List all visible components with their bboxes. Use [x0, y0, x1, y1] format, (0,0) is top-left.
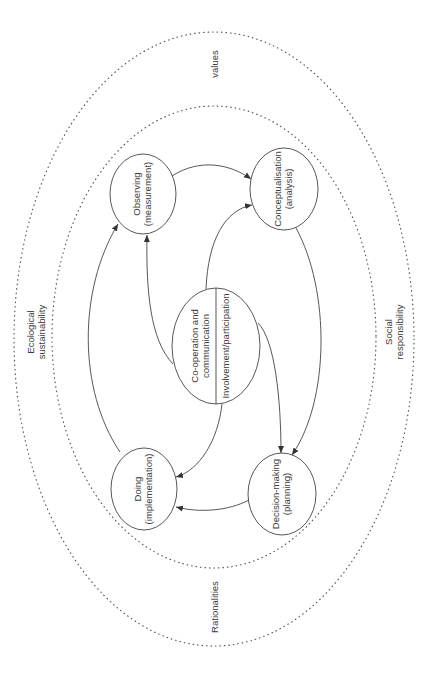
- label-cooperation-communication: Co-operation and communication: [189, 296, 213, 396]
- edge-center-to-conceptualisation: [206, 205, 252, 289]
- edge-center-to-observing: [147, 235, 173, 364]
- label-decision-making: Decision-making (planning): [270, 449, 294, 539]
- diagram-canvas: values Rationalities Ecological sustaina…: [0, 0, 430, 677]
- label-rationalities: Rationalities: [209, 567, 221, 647]
- label-ecological-sustainability: Ecological sustainability: [25, 292, 49, 372]
- edge-conceptualisation-to-decision: [292, 228, 321, 455]
- label-conceptualisation: Conceptualisation (analysis): [272, 139, 296, 239]
- label-social-responsibility: Social responsibility: [383, 292, 407, 372]
- edge-decision-to-doing: [176, 500, 249, 510]
- edge-doing-to-observing: [88, 224, 120, 452]
- edge-center-to-decision: [258, 323, 281, 453]
- edge-center-to-doing: [176, 404, 222, 477]
- label-values: values: [209, 39, 221, 89]
- edge-observing-to-conceptualisation: [172, 165, 251, 179]
- label-involvement-participation: Involvement/participation: [220, 291, 232, 401]
- label-observing: Observing (measurement): [131, 149, 155, 239]
- label-doing: Doing (implementation): [132, 444, 156, 534]
